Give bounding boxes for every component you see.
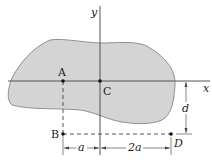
arrowhead-2a-left	[101, 147, 106, 150]
arrowhead-a-right	[94, 147, 99, 150]
point-a	[61, 79, 65, 83]
dimension-label-2a: 2a	[127, 141, 142, 154]
arrowhead-d-bottom	[185, 128, 188, 133]
dimension-label-a: a	[78, 141, 85, 154]
point-b	[61, 132, 65, 136]
y-axis-label: y	[90, 6, 98, 19]
x-axis-label: x	[203, 82, 210, 95]
point-c	[98, 79, 102, 83]
diagram-canvas: y x A C B D a 2a d	[0, 0, 212, 160]
label-a: A	[57, 66, 67, 79]
point-d	[169, 132, 173, 136]
label-b: B	[51, 128, 59, 141]
label-c: C	[103, 85, 111, 98]
plane-area	[8, 39, 175, 123]
arrowhead-a-left	[64, 147, 69, 150]
label-d-point: D	[173, 137, 183, 150]
arrowhead-d-top	[185, 82, 188, 87]
arrowhead-2a-right	[165, 147, 170, 150]
dimension-label-d: d	[182, 102, 189, 115]
